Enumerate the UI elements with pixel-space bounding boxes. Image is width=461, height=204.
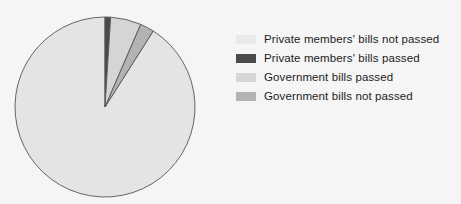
- legend-swatch-government-bills-not-passed: [236, 92, 256, 101]
- pie-chart-plot-area: [0, 0, 215, 204]
- legend-item[interactable]: Government bills passed: [236, 68, 461, 87]
- pie-slice-group: [15, 17, 195, 197]
- legend-item-label: Private members' bills not passed: [264, 33, 439, 46]
- chart-legend: Private members' bills not passedPrivate…: [236, 30, 461, 106]
- legend-item-label: Government bills passed: [264, 71, 393, 84]
- legend-item[interactable]: Government bills not passed: [236, 87, 461, 106]
- legend-swatch-private-members-bills-not-passed: [236, 35, 256, 44]
- legend-item-label: Government bills not passed: [264, 90, 413, 103]
- legend-swatch-private-members-bills-passed: [236, 54, 256, 63]
- pie-chart-svg: [0, 0, 215, 204]
- legend-item[interactable]: Private members' bills not passed: [236, 30, 461, 49]
- pie-chart-figure: Private members' bills not passedPrivate…: [0, 0, 461, 204]
- legend-item-label: Private members' bills passed: [264, 52, 420, 65]
- legend-item[interactable]: Private members' bills passed: [236, 49, 461, 68]
- legend-swatch-government-bills-passed: [236, 73, 256, 82]
